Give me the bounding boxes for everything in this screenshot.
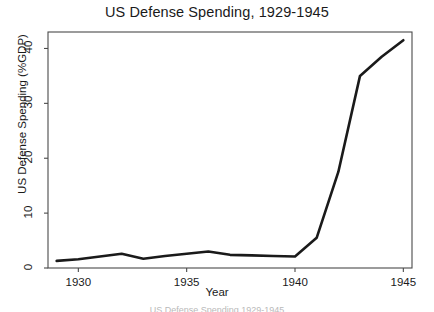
chart-figure: US Defense Spending, 1929-1945 US Defens… <box>0 0 434 312</box>
data-series-line <box>57 40 404 261</box>
plot-frame <box>48 32 412 268</box>
clipped-caption-text: US Defense Spending 1929-1945 <box>0 305 434 312</box>
plot-area <box>0 0 434 312</box>
clipped-caption: US Defense Spending 1929-1945 <box>0 305 434 312</box>
